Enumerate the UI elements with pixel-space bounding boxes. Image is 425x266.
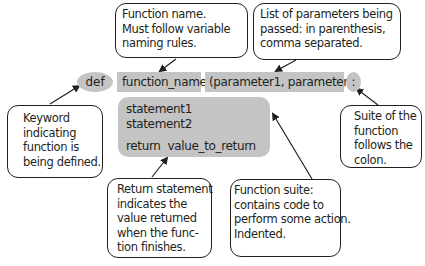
suite-line <box>126 132 262 139</box>
callout-text: Function name. <box>122 7 241 22</box>
suite-line: statement2 <box>126 117 262 132</box>
callout-return: Return statement indicates the value ret… <box>107 178 212 258</box>
arrow-suite <box>273 114 312 179</box>
callout-suite: Function suite: contains code to perform… <box>230 179 341 257</box>
arrow-return <box>152 158 167 177</box>
callout-parameters: List of parameters being passed: in pare… <box>253 3 401 60</box>
callout-text: naming rules. <box>122 36 241 51</box>
callout-text: Indented. <box>234 227 337 242</box>
arrow-function-name <box>160 59 176 71</box>
callout-text: comma separated. <box>260 36 394 51</box>
callout-text: perform some action. <box>234 212 337 227</box>
callout-text: follows the <box>354 138 408 153</box>
callout-text: contains code to <box>234 198 337 213</box>
callout-text: when the func- <box>117 226 202 241</box>
arrow-colon <box>357 89 378 105</box>
callout-text: Return statement <box>117 182 202 197</box>
parameters-token: (parameter1, parameter2) <box>205 72 344 92</box>
callout-keyword: Keyword indicating function is being def… <box>7 105 103 178</box>
callout-text: function is <box>23 140 87 155</box>
callout-text: colon. <box>354 153 408 168</box>
callout-text: indicates the <box>117 197 202 212</box>
callout-text: function <box>354 124 408 139</box>
callout-text: Keyword <box>23 111 87 126</box>
callout-text: Suite of the <box>354 109 408 124</box>
function-suite-block: statement1 statement2 return value_to_re… <box>118 97 270 157</box>
callout-text: Function suite: <box>234 183 337 198</box>
callout-text: value returned <box>117 211 202 226</box>
callout-function-name: Function name. Must follow variable nami… <box>115 3 248 58</box>
function-name-token: function_name <box>117 72 201 92</box>
suite-line: statement1 <box>126 102 262 117</box>
suite-line: return value_to_return <box>126 139 262 154</box>
callout-colon: Suite of the function follows the colon. <box>340 105 422 168</box>
callout-text: Must follow variable <box>122 22 241 37</box>
arrow-keyword <box>50 86 79 104</box>
callout-text: indicating <box>23 126 87 141</box>
def-keyword: def <box>77 72 113 92</box>
callout-text: tion finishes. <box>117 240 202 255</box>
callout-text: List of parameters being <box>260 7 394 22</box>
arrow-parameters <box>276 60 296 71</box>
callout-text: being defined. <box>23 155 87 170</box>
callout-text: passed: in parenthesis, <box>260 22 394 37</box>
colon-token: : <box>346 72 361 92</box>
